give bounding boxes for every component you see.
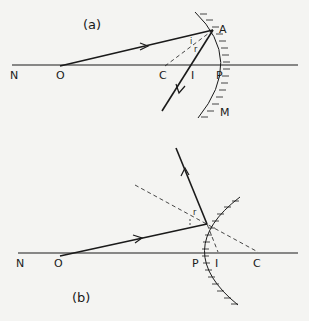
label-n: N xyxy=(16,257,24,270)
label-i: I xyxy=(215,257,218,270)
diagram-a: (a) N O C I P A M i r xyxy=(10,12,298,119)
label-m: M xyxy=(220,106,230,119)
label-c: C xyxy=(253,257,261,270)
label-c: C xyxy=(159,69,167,82)
caption-b: (b) xyxy=(72,290,90,305)
label-a: A xyxy=(219,23,227,36)
angle-r-label: r xyxy=(193,208,197,217)
label-p: P xyxy=(216,69,223,82)
mirror-diagrams: (a) N O C I P A M i r xyxy=(0,0,309,321)
reflected-ray-b xyxy=(176,148,207,224)
label-o: O xyxy=(56,69,65,82)
label-o: O xyxy=(54,257,63,270)
angle-r-label: r xyxy=(194,45,198,54)
incident-ray-b xyxy=(60,224,207,256)
label-n: N xyxy=(10,69,18,82)
incident-ray-a xyxy=(60,30,213,66)
convex-mirror xyxy=(204,197,240,305)
label-p: P xyxy=(192,257,199,270)
label-i: I xyxy=(191,69,194,82)
normal-b xyxy=(135,185,258,252)
angle-i-label: i xyxy=(190,37,192,46)
reflected-ray-a xyxy=(162,30,213,111)
caption-a: (a) xyxy=(83,17,101,32)
diagram-b: (b) N O P I C r xyxy=(16,148,298,305)
